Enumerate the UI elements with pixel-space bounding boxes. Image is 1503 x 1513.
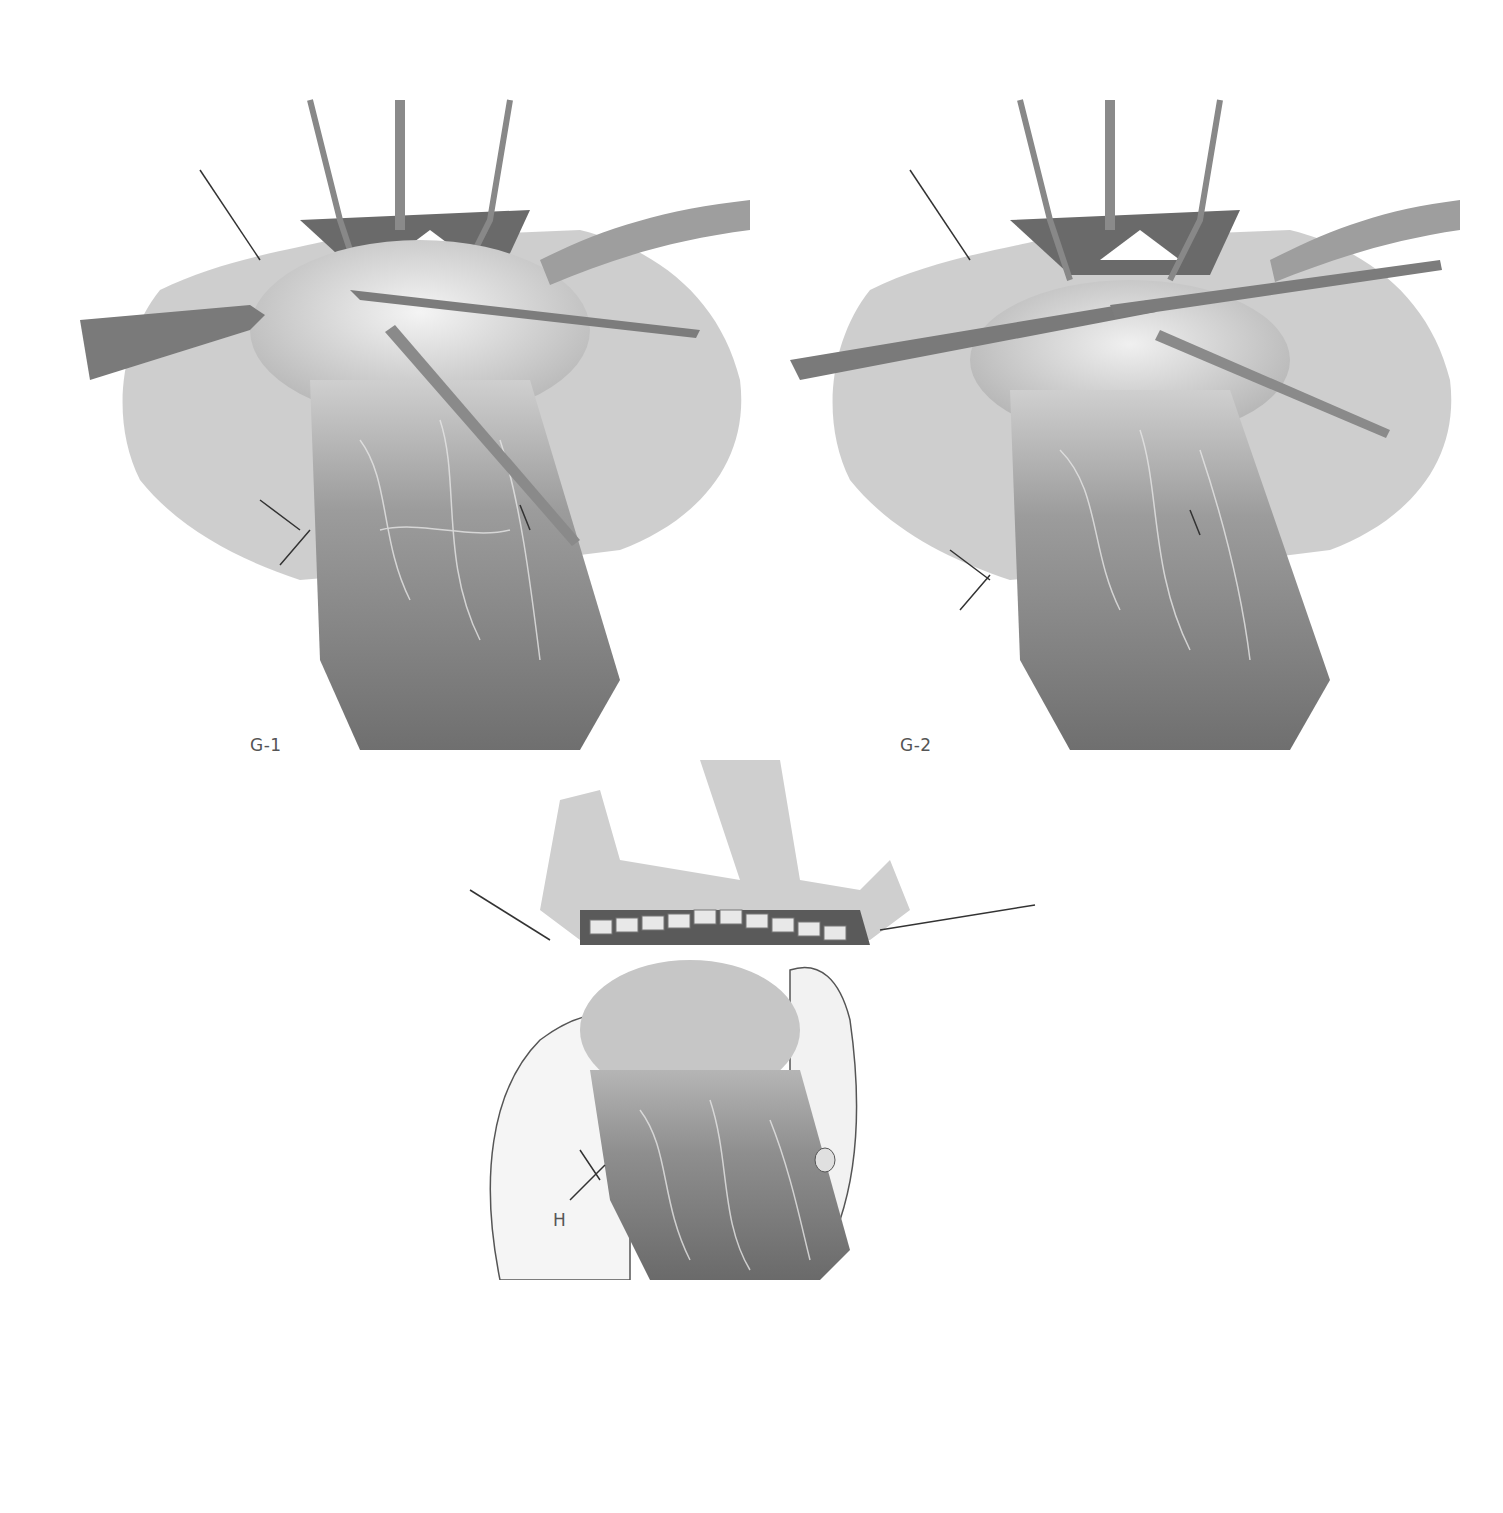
panel-h: H [440, 760, 1060, 1280]
surgical-illustration-g1 [60, 60, 760, 760]
panel-g2: G-2 [770, 60, 1470, 760]
panel-label-g2: G-2 [900, 735, 932, 755]
panel-g1: G-1 [60, 60, 760, 760]
panel-label-g1: G-1 [250, 735, 282, 755]
panel-label-h: H [553, 1210, 566, 1230]
surgical-illustration-g2 [770, 60, 1470, 760]
surgical-illustration-h [440, 760, 1060, 1280]
